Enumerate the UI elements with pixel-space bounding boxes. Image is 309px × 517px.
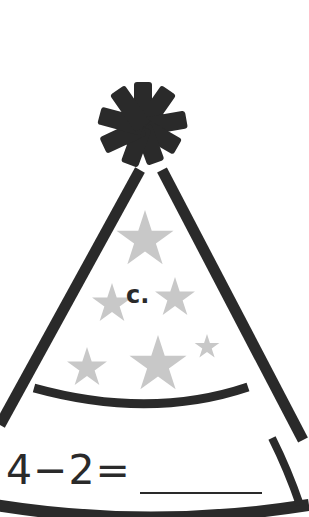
star-icon [195, 334, 220, 358]
star-icon [116, 210, 173, 264]
star-icon [67, 347, 107, 385]
item-label: c. [126, 281, 149, 309]
pom-pom-icon [97, 82, 188, 168]
star-icon [155, 277, 195, 315]
party-hat-illustration [0, 0, 309, 517]
star-icon [129, 335, 186, 389]
answer-blank-line[interactable] [140, 492, 262, 494]
equation-text: 4−2= [6, 446, 131, 494]
